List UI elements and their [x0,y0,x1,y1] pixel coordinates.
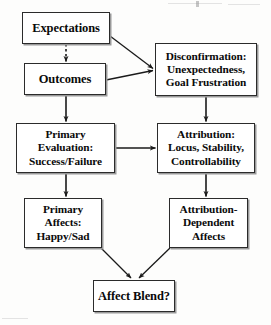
node-text-line: Outcomes [39,72,92,87]
edge-primary-affects-to-affect-blend [101,248,131,278]
edge-expectations-to-disconfirmation [110,36,153,69]
node-text-line: Goal Frustration [166,76,246,89]
expectations-node: Expectations [22,12,110,44]
flowchart-diagram: Expectations Outcomes Disconfirmation: U… [0,0,271,325]
node-text-line: Disconfirmation: [166,50,247,63]
node-text-line: Attribution: [177,128,235,141]
node-text-line: Happy/Sad [36,230,89,243]
scan-artifact [196,1,199,7]
node-text-line: Controllability [171,155,241,168]
node-text-line: Affect Blend? [98,289,170,304]
node-text-line: Evaluation: [38,141,93,154]
outcomes-node: Outcomes [24,63,106,95]
attribution-node: Attribution: Locus, Stability, Controlla… [157,123,255,173]
scan-artifact [168,3,222,4]
node-text-line: Unexpectedness, [167,63,245,76]
scan-artifact [2,318,28,319]
node-text-line: Success/Failure [29,155,102,168]
affect-blend-node: Affect Blend? [93,280,175,312]
node-text-line: Attribution- [180,203,238,216]
node-text-line: Dependent [183,216,234,229]
node-text-line: Affects: [45,216,82,229]
primary-affects-node: Primary Affects: Happy/Sad [24,198,102,248]
node-text-line: Affects [192,230,225,243]
node-text-line: Locus, Stability, [168,141,244,154]
edge-outcomes-to-disconfirmation [106,71,153,81]
primary-evaluation-node: Primary Evaluation: Success/Failure [16,123,115,173]
node-text-line: Primary [45,128,85,141]
edge-attribution-dependent-affects-to-affect-blend [139,248,170,278]
disconfirmation-node: Disconfirmation: Unexpectedness, Goal Fr… [155,43,257,96]
node-text-line: Expectations [32,21,100,36]
scan-artifact [228,4,260,5]
node-text-line: Primary [43,203,83,216]
attribution-dependent-affects-node: Attribution- Dependent Affects [169,198,248,248]
